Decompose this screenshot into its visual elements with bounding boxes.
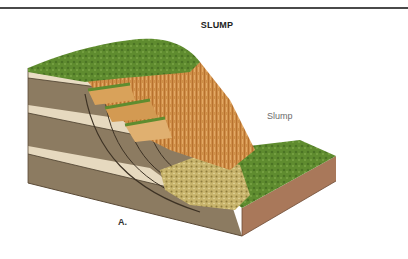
slump-block-diagram: [0, 0, 408, 259]
slump-annotation: Slump: [267, 111, 293, 121]
panel-label: A.: [118, 217, 127, 227]
